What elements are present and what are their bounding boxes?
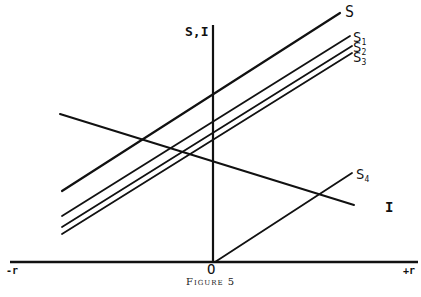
origin-label: O xyxy=(207,262,215,276)
x-axis-left-label: -r xyxy=(6,266,18,276)
curve-s4 xyxy=(215,173,352,262)
curve-i xyxy=(60,114,354,205)
curve-s1 xyxy=(62,36,350,216)
line-label-s4: S4 xyxy=(356,167,369,184)
figure-caption: Figure 5 xyxy=(0,276,421,287)
y-axis-label: S,I xyxy=(185,25,208,38)
line-label-s: S xyxy=(345,5,354,20)
line-label-s3: S3 xyxy=(353,50,366,67)
x-axis-right-label: +r xyxy=(403,266,415,276)
curve-s2 xyxy=(62,46,352,227)
line-label-i: I xyxy=(385,200,393,214)
curve-s3 xyxy=(62,53,352,234)
curves-group xyxy=(60,13,354,262)
curve-s xyxy=(62,13,340,191)
